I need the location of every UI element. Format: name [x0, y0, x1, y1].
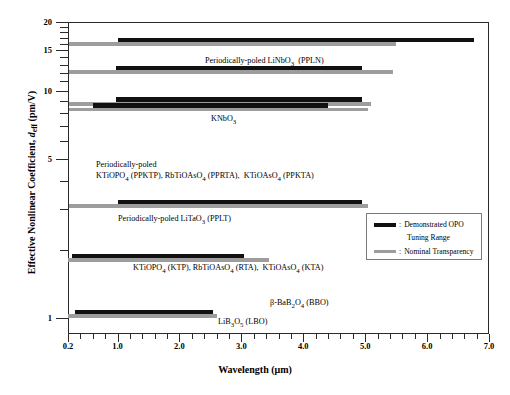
y-axis-title-symbol-sub: eff	[30, 124, 39, 132]
x-tick-label: 3.0	[221, 341, 261, 351]
bar-transparency-knbo3	[69, 70, 393, 74]
bar-transparency-ppln	[69, 42, 397, 46]
series-label-ktp: KTiOPO4 (KTP), RbTiOAsO4 (RTA), KTiOAsO4…	[133, 262, 323, 276]
x-tick-minor	[291, 334, 292, 339]
legend-item-transparency: : Nominal Transparency	[374, 247, 474, 256]
series-label-knbo3: KNbO3	[211, 113, 236, 127]
x-tick-minor	[415, 334, 416, 339]
y-tick-minor	[60, 57, 68, 58]
x-tick-minor	[130, 334, 131, 339]
y-tick-minor	[60, 27, 68, 28]
y-tick-major	[56, 159, 68, 160]
x-tick-label: 7.0	[469, 341, 509, 351]
x-tick-minor	[254, 334, 255, 339]
y-tick-minor	[60, 65, 68, 66]
x-tick-label: 5.0	[345, 341, 385, 351]
x-tick-minor	[217, 334, 218, 339]
y-tick-minor	[60, 141, 68, 142]
y-axis-title-symbol: d	[26, 132, 37, 137]
bar-demonstrated-bbo	[72, 254, 244, 259]
y-tick-minor	[60, 209, 68, 210]
legend-swatch-gray-icon	[374, 250, 396, 254]
series-label-ppktp-line1: Periodically-poled	[96, 159, 314, 170]
bar-transparency-ktp	[69, 204, 368, 208]
series-label-pplt: Periodically-poled LiTaO3 (PPLT)	[118, 213, 231, 227]
series-label-ppktp-line2: KTiOPO4 (PPKTP), RbTiOAsO4 (PPRTA), KTiO…	[96, 170, 314, 184]
x-tick-minor	[452, 334, 453, 339]
series-label-ppln: Periodically-poled LiNbO3 (PPLN)	[205, 55, 324, 69]
y-tick-minor	[60, 250, 68, 251]
y-tick-label: 20	[30, 17, 52, 27]
x-tick-minor	[464, 334, 465, 339]
x-tick-minor	[279, 334, 280, 339]
x-tick-minor	[316, 334, 317, 339]
x-axis-title: Wavelength (μm)	[0, 364, 510, 375]
x-tick-label: 4.0	[283, 341, 323, 351]
x-tick-minor	[167, 334, 168, 339]
y-axis-title: Effective Nonlinear Coefficient, deff (p…	[26, 33, 39, 333]
x-tick-minor	[440, 334, 441, 339]
legend-label-demonstrated-1: Demonstrated OPO	[404, 220, 464, 229]
y-tick-minor	[60, 113, 68, 114]
y-tick-minor	[60, 38, 68, 39]
x-tick-label: 1.0	[98, 341, 138, 351]
y-tick-minor	[60, 101, 68, 102]
y-tick-major	[56, 22, 68, 23]
legend-label-demonstrated-2: Tuning Range	[407, 233, 450, 242]
bar-transparency-pplt	[69, 108, 368, 112]
y-tick-minor	[60, 81, 68, 82]
y-axis-title-main: Effective Nonlinear Coefficient,	[26, 140, 37, 275]
series-label-ppktp: Periodically-poled KTiOPO4 (PPKTP), RbTi…	[96, 159, 314, 184]
legend-label-transparency: Nominal Transparency	[404, 247, 473, 256]
legend: : Demonstrated OPO Tuning Range : Nomina…	[366, 213, 482, 260]
y-tick-minor	[60, 32, 68, 33]
bar-demonstrated-ppktp	[116, 97, 362, 102]
bar-demonstrated-ktp	[118, 200, 363, 205]
x-tick-minor	[328, 334, 329, 339]
x-tick-minor	[229, 334, 230, 339]
x-tick-minor	[266, 334, 267, 339]
x-tick-minor	[105, 334, 106, 339]
x-tick-label: 2.0	[159, 341, 199, 351]
x-tick-minor	[353, 334, 354, 339]
x-tick-label: 6.0	[407, 341, 447, 351]
y-axis-title-units: (pm/V)	[26, 91, 37, 122]
bar-demonstrated-lbo	[75, 310, 213, 315]
y-tick-major	[56, 91, 68, 92]
y-tick-major	[56, 50, 68, 51]
x-tick-minor	[142, 334, 143, 339]
bar-demonstrated-pplt	[93, 103, 328, 108]
y-tick-minor	[60, 73, 68, 74]
y-tick-minor	[60, 126, 68, 127]
x-tick-minor	[390, 334, 391, 339]
series-label-bbo: β-BaB2O4 (BBO)	[270, 297, 329, 311]
y-tick-major	[56, 318, 68, 319]
y-tick-minor	[60, 181, 68, 182]
y-tick-minor	[60, 44, 68, 45]
x-tick-minor	[93, 334, 94, 339]
bar-transparency-lbo	[68, 314, 217, 318]
x-tick-minor	[477, 334, 478, 339]
bar-demonstrated-ppln	[118, 38, 474, 43]
legend-separator-2: :	[399, 247, 401, 256]
x-tick-minor	[80, 334, 81, 339]
legend-swatch-black-icon	[374, 223, 396, 227]
x-tick-minor	[204, 334, 205, 339]
x-tick-minor	[402, 334, 403, 339]
legend-separator-1: :	[399, 220, 401, 229]
x-tick-minor	[340, 334, 341, 339]
x-tick-minor	[378, 334, 379, 339]
x-tick-label: 0.2	[48, 341, 88, 351]
x-tick-minor	[155, 334, 156, 339]
series-label-lbo: LiB3O5 (LBO)	[218, 316, 267, 330]
x-tick-minor	[192, 334, 193, 339]
chart-root: 15101520 0.21.02.03.04.05.06.07.0 Period…	[0, 0, 510, 395]
legend-item-demonstrated: : Demonstrated OPO	[374, 220, 464, 229]
